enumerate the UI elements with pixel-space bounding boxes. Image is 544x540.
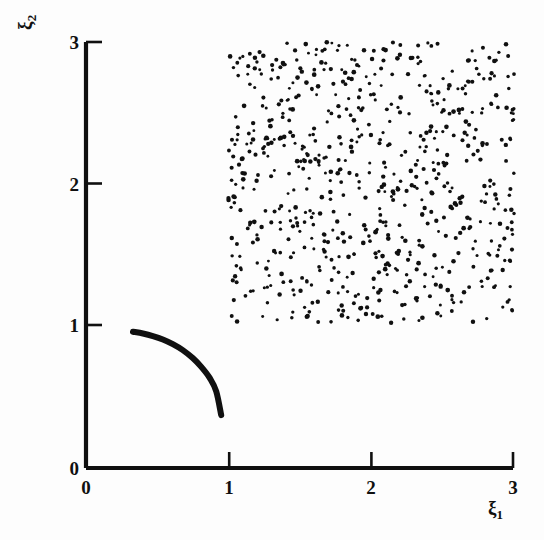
x-axis-title-subscript: 1 — [496, 507, 503, 522]
y-tick-label-0: 0 — [70, 459, 80, 478]
scatter-points — [226, 40, 516, 325]
x-tick-label-1: 1 — [224, 478, 234, 497]
y-axis-ticks — [86, 42, 102, 325]
x-axis-ticks — [229, 452, 513, 468]
constraint-curve — [133, 332, 221, 416]
x-tick-label-0: 0 — [81, 478, 91, 497]
plot-area — [0, 0, 544, 540]
axis-lines — [86, 42, 513, 468]
y-tick-label-3: 3 — [70, 33, 80, 52]
y-tick-label-1: 1 — [70, 316, 80, 335]
y-tick-label-2: 2 — [70, 175, 80, 194]
y-axis-title-subscript: 2 — [24, 15, 39, 22]
x-tick-label-2: 2 — [366, 478, 376, 497]
y-axis-title: ξ2 — [14, 15, 40, 30]
scatter-figure: 0 1 2 3 0 1 2 3 ξ2 ξ1 — [0, 0, 544, 540]
y-axis-title-symbol: ξ — [14, 21, 35, 30]
x-tick-label-3: 3 — [508, 478, 518, 497]
x-axis-title: ξ1 — [488, 497, 503, 523]
